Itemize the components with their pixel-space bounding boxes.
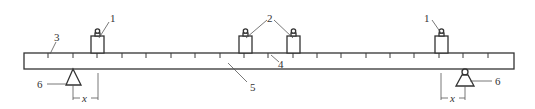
leader-2-b [274, 20, 293, 38]
label-2: 2 [267, 12, 273, 24]
label-6-right: 6 [495, 75, 501, 87]
label-x-left: x [81, 92, 87, 104]
support-right [456, 69, 474, 86]
label-6-left: 6 [37, 78, 43, 90]
label-x-right: x [449, 92, 455, 104]
label-4: 4 [278, 58, 284, 70]
support-left [66, 69, 81, 85]
weight-middle-left [239, 29, 252, 53]
label-5: 5 [250, 81, 256, 93]
leader-1-right [432, 20, 441, 33]
beam-diagram: x x 1 2 1 3 4 5 6 6 [0, 0, 535, 109]
weight-right [435, 29, 448, 53]
weight-middle-right [287, 29, 300, 53]
label-1-left: 1 [110, 12, 116, 24]
label-3: 3 [54, 31, 60, 43]
leader-3 [50, 42, 56, 54]
label-1-right: 1 [424, 12, 430, 24]
leader-2-a [246, 20, 267, 38]
